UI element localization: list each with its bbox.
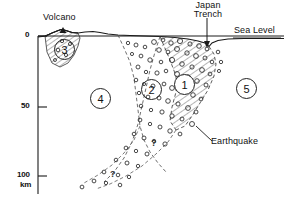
axis-tick-0: 0	[25, 31, 29, 39]
region-marker-1: 1	[174, 74, 195, 95]
region-2-boundary	[104, 35, 166, 182]
region-marker-5: 5	[236, 78, 257, 99]
region-marker-3: 3	[54, 39, 75, 60]
region-marker-2: 2	[141, 79, 162, 100]
axis-tick-50: 50	[21, 102, 30, 110]
axis-tick-100: 100	[17, 171, 30, 179]
earthquake-leader	[196, 126, 212, 141]
slab-deep-dashed-boundary	[84, 126, 176, 189]
region-marker-4: 4	[90, 88, 111, 109]
diagram-canvas: 0 50 100 km Volcano Japan Trench Sea Lev…	[0, 0, 288, 198]
volcano-label: Volcano	[43, 13, 76, 22]
earthquake-label: Earthquake	[211, 137, 258, 146]
japan-trench-label-line2: Trench	[186, 10, 230, 19]
query-marker-upper: ?	[151, 138, 157, 148]
depth-axis	[38, 36, 47, 194]
axis-unit-label: km	[20, 181, 31, 189]
query-marker-lower: ?	[110, 169, 116, 179]
sea-level-label: Sea Level	[234, 26, 275, 35]
